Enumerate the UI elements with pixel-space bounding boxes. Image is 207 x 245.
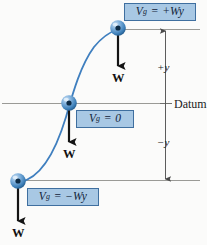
callout-mid-value: 0 [115, 113, 121, 125]
callout-mid-equals: = [103, 113, 112, 125]
callout-top-subscript: g [143, 8, 147, 16]
potential-energy-diagram: Vg = +Wy Vg = 0 Vg = −Wy Datum +y −y W W… [0, 0, 207, 245]
callout-top-value: +Wy [162, 6, 184, 18]
dimension-label-plus-y: +y [157, 62, 169, 73]
sphere-top [110, 20, 126, 36]
sphere-bottom [10, 173, 26, 189]
callout-bottom-equals: = [53, 191, 62, 203]
callout-mid-symbol: V [89, 113, 96, 125]
weight-label-middle: W [63, 148, 76, 161]
callout-bottom-subscript: g [46, 193, 50, 201]
weight-label-bottom: W [12, 227, 25, 240]
callout-potential-energy-zero: Vg = 0 [76, 110, 134, 128]
sphere-middle [61, 95, 77, 111]
callout-bottom-symbol: V [39, 191, 46, 203]
callout-top-equals: = [150, 6, 159, 18]
callout-bottom-value: −Wy [65, 191, 87, 203]
weight-label-top: W [112, 72, 125, 85]
datum-label: Datum [174, 98, 207, 110]
callout-mid-subscript: g [96, 115, 100, 123]
dimension-label-minus-y: −y [157, 137, 169, 148]
callout-potential-energy-negative: Vg = −Wy [27, 188, 99, 206]
callout-potential-energy-positive: Vg = +Wy [124, 3, 196, 21]
callout-top-symbol: V [136, 6, 143, 18]
